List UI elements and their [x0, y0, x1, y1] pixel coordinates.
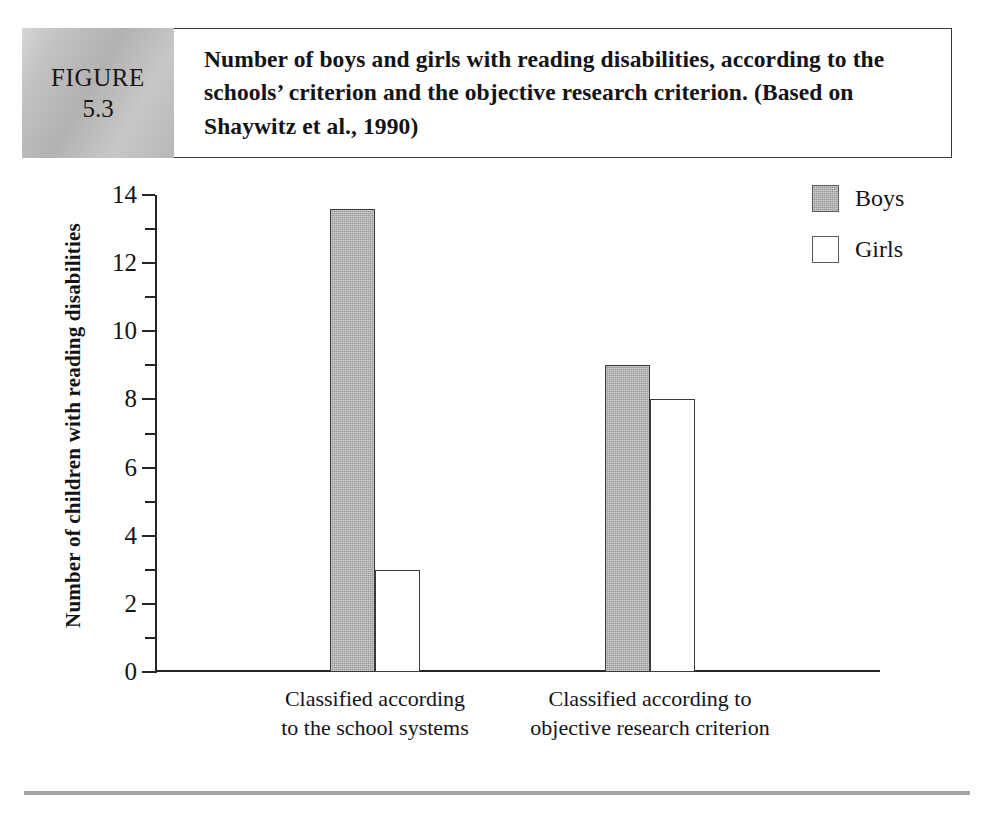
y-tick-major	[142, 603, 155, 605]
y-axis-title: Number of children with reading disabili…	[61, 186, 86, 666]
figure-caption-block: FIGURE 5.3 Number of boys and girls with…	[22, 28, 952, 158]
y-tick-major	[142, 398, 155, 400]
bar-girls-group-1	[375, 570, 420, 672]
legend-label-boys: Boys	[855, 185, 904, 212]
legend-swatch-girls	[812, 236, 839, 263]
legend-label-girls: Girls	[855, 236, 903, 263]
y-tick-major	[142, 467, 155, 469]
y-axis-line	[155, 195, 157, 673]
y-tick-label: 0	[125, 658, 138, 686]
y-tick-minor	[145, 433, 155, 435]
y-tick-major	[142, 194, 155, 196]
chart-region: Number of children with reading disabili…	[0, 165, 994, 765]
x-axis-category-label: Classified according to objective resear…	[475, 685, 825, 742]
y-tick-minor	[145, 501, 155, 503]
plot-area: 02468101214	[155, 195, 880, 672]
legend-item-girls[interactable]: Girls	[812, 236, 992, 263]
chart-legend: BoysGirls	[812, 185, 992, 287]
y-tick-major	[142, 330, 155, 332]
legend-swatch-boys	[812, 185, 839, 212]
figure-badge-word: FIGURE	[51, 62, 145, 93]
y-tick-label: 4	[125, 522, 138, 550]
bottom-divider-rule	[24, 791, 970, 795]
bar-girls-group-2	[650, 399, 695, 672]
legend-item-boys[interactable]: Boys	[812, 185, 992, 212]
y-tick-minor	[145, 228, 155, 230]
y-tick-major	[142, 262, 155, 264]
y-tick-minor	[145, 364, 155, 366]
x-axis-line	[155, 670, 880, 672]
y-tick-minor	[145, 569, 155, 571]
y-tick-label: 10	[112, 317, 137, 345]
y-tick-label: 14	[112, 181, 137, 209]
y-tick-label: 8	[125, 385, 138, 413]
y-tick-label: 12	[112, 249, 137, 277]
y-tick-minor	[145, 296, 155, 298]
figure-caption-box: Number of boys and girls with reading di…	[174, 28, 952, 158]
y-tick-minor	[145, 637, 155, 639]
bar-boys-group-1	[330, 209, 375, 672]
bar-boys-group-2	[605, 365, 650, 672]
y-tick-label: 2	[125, 590, 138, 618]
figure-badge-number: 5.3	[82, 93, 113, 124]
y-tick-major	[142, 671, 155, 673]
y-tick-label: 6	[125, 454, 138, 482]
figure-caption-text: Number of boys and girls with reading di…	[174, 43, 951, 143]
figure-number-badge: FIGURE 5.3	[22, 28, 174, 158]
y-tick-major	[142, 535, 155, 537]
